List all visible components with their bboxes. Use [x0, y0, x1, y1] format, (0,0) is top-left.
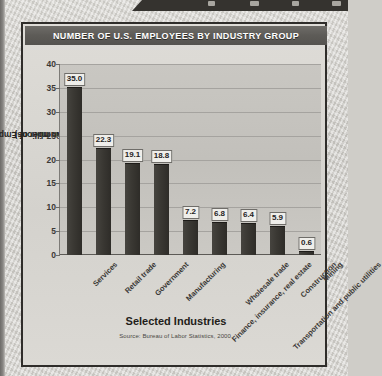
y-axis-tick-label: 40	[47, 59, 56, 69]
page-left-edge	[0, 0, 5, 376]
gridline	[60, 64, 321, 65]
x-axis-title: Selected Industries	[25, 315, 327, 327]
y-tick-mark	[56, 136, 60, 137]
bar	[270, 226, 285, 255]
gridline	[60, 88, 321, 89]
bar	[241, 223, 256, 255]
bar-value-label: 0.6	[298, 237, 315, 250]
bar	[183, 220, 198, 255]
chart-title-bar: NUMBER OF U.S. EMPLOYEES BY INDUSTRY GRO…	[25, 26, 327, 45]
bar	[67, 87, 82, 255]
chart-container: NUMBER OF U.S. EMPLOYEES BY INDUSTRY GRO…	[21, 22, 327, 367]
bar	[96, 148, 111, 255]
y-tick-mark	[56, 183, 60, 184]
y-tick-mark	[56, 231, 60, 232]
gridline	[60, 112, 321, 113]
bar-value-label: 35.0	[64, 73, 86, 86]
bar-value-label: 22.3	[93, 134, 115, 147]
y-tick-mark	[56, 88, 60, 89]
bar	[299, 251, 314, 255]
y-tick-mark	[56, 255, 60, 256]
y-tick-mark	[56, 64, 60, 65]
source-note: Source: Bureau of Labor Statistics, 2000…	[25, 333, 327, 339]
banner-mark	[292, 1, 299, 6]
bar	[154, 164, 169, 255]
bar	[212, 222, 227, 255]
plot-wrapper: Number of Employees (in millions) 051015…	[25, 45, 327, 367]
y-axis-tick-label: 5	[51, 226, 56, 236]
y-axis-tick-label: 20	[47, 155, 56, 165]
bar	[125, 163, 140, 255]
chart-title: NUMBER OF U.S. EMPLOYEES BY INDUSTRY GRO…	[53, 31, 299, 41]
y-axis-tick-label: 30	[47, 107, 56, 117]
y-tick-mark	[56, 207, 60, 208]
y-axis-tick-label: 15	[47, 178, 56, 188]
y-axis-tick-label: 35	[47, 83, 56, 93]
x-axis-category-label: Services	[91, 260, 119, 288]
y-tick-mark	[56, 160, 60, 161]
bar-value-label: 19.1	[122, 149, 144, 162]
bar-value-label: 5.9	[269, 212, 286, 225]
y-axis-tick-label: 25	[47, 131, 56, 141]
y-axis-tick-label: 0	[51, 250, 56, 260]
bar-value-label: 7.2	[182, 206, 199, 219]
y-tick-mark	[56, 112, 60, 113]
bar-value-label: 6.4	[240, 209, 257, 222]
plot-area: 051015202530354035.022.319.118.87.26.86.…	[59, 64, 321, 255]
y-axis-title: Number of Employees (in millions)	[21, 75, 35, 195]
banner-mark	[208, 1, 215, 6]
banner-mark	[332, 1, 341, 6]
y-axis-tick-label: 10	[47, 202, 56, 212]
bar-value-label: 6.8	[211, 208, 228, 221]
bar-value-label: 18.8	[151, 150, 173, 163]
banner-mark	[250, 1, 259, 6]
page-header-banner	[132, 0, 348, 11]
